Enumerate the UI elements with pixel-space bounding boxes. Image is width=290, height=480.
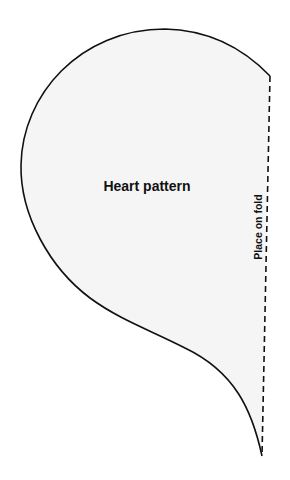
pattern-title: Heart pattern xyxy=(103,178,190,194)
heart-pattern-diagram: Heart pattern Place on fold xyxy=(0,0,290,480)
pattern-outline xyxy=(21,29,270,456)
fold-label: Place on fold xyxy=(252,194,264,259)
